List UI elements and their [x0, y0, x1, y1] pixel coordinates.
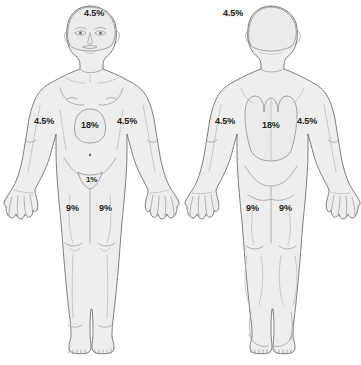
- label-right-arm-back: 4.5%: [297, 117, 317, 126]
- navel: [89, 154, 91, 157]
- label-head-front: 4.5%: [84, 9, 104, 18]
- label-left-leg-front: 9%: [66, 204, 79, 213]
- label-trunk-back: 18%: [262, 121, 280, 130]
- posterior-body-outline: [185, 6, 360, 354]
- posterior-body-svg: [181, 0, 361, 365]
- label-trunk-front: 18%: [81, 121, 99, 130]
- label-right-arm-front: 4.5%: [117, 117, 137, 126]
- posterior-body-figure: [181, 0, 361, 365]
- label-genitalia: 1%: [86, 176, 97, 184]
- label-left-arm-back: 4.5%: [215, 117, 235, 126]
- left-pupil: [79, 31, 82, 34]
- right-pupil: [99, 31, 102, 34]
- label-right-leg-back: 9%: [279, 204, 292, 213]
- label-right-leg-front: 9%: [99, 204, 112, 213]
- label-left-leg-back: 9%: [246, 204, 259, 213]
- label-left-arm-front: 4.5%: [34, 117, 54, 126]
- label-head-back: 4.5%: [223, 9, 243, 18]
- rule-of-nines-diagram: 4.5% 4.5% 18% 4.5% 1% 9% 9% 4.5% 4.5% 18…: [0, 0, 361, 365]
